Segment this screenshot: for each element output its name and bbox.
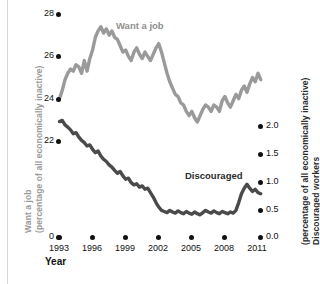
x-tick-dot-1996 <box>90 235 95 240</box>
left-tick-dot-26 <box>56 54 61 59</box>
left-axis-title-line1: Want a job <box>23 189 33 233</box>
left-tick-label-26: 26 <box>34 50 54 60</box>
x-tick-label-1999: 1999 <box>110 243 140 253</box>
x-tick-label-1996: 1996 <box>77 243 107 253</box>
x-tick-dot-1993 <box>57 235 62 240</box>
x-axis-title: Year <box>45 256 66 267</box>
x-tick-dot-2005 <box>189 235 194 240</box>
x-tick-dot-2008 <box>222 235 227 240</box>
left-tick-dot-28 <box>56 12 61 17</box>
x-tick-label-1993: 1993 <box>44 243 74 253</box>
left-tick-label-24: 24 <box>34 93 54 103</box>
x-tick-dot-2002 <box>156 235 161 240</box>
right-tick-label-2-0: 2.0 <box>266 120 279 130</box>
right-axis-title-line2: (percentage of all economically inactive… <box>300 77 310 245</box>
right-tick-dot-0-0 <box>258 235 263 240</box>
left-tick-dot-24 <box>56 97 61 102</box>
right-tick-dot-1-5 <box>258 152 263 157</box>
chart-figure: Want a job (percentage of all economical… <box>0 0 320 284</box>
right-tick-dot-0-5 <box>258 208 263 213</box>
x-tick-label-2002: 2002 <box>143 243 173 253</box>
x-tick-dot-1999 <box>123 235 128 240</box>
left-axis-title-line2: (percentage of all economically inactive… <box>34 65 44 233</box>
right-tick-label-0-0: 0.0 <box>266 231 279 241</box>
series-want-a-job <box>60 27 261 122</box>
right-tick-dot-1-0 <box>258 180 263 185</box>
series-annotation-want-a-job: Want a job <box>116 20 164 31</box>
series-annotation-discouraged: Discouraged <box>185 170 243 181</box>
right-tick-dot-2-0 <box>258 124 263 129</box>
right-tick-label-0-5: 0.5 <box>266 204 279 214</box>
right-tick-label-1-0: 1.0 <box>266 176 279 186</box>
x-tick-label-2008: 2008 <box>209 243 239 253</box>
right-tick-label-1-5: 1.5 <box>266 148 279 158</box>
left-tick-dot-22 <box>56 139 61 144</box>
series-discouraged <box>60 120 261 214</box>
x-tick-label-2011: 2011 <box>242 243 272 253</box>
left-tick-label-22: 22 <box>34 135 54 145</box>
left-tick-label-28: 28 <box>34 8 54 18</box>
x-tick-label-2005: 2005 <box>176 243 206 253</box>
left-tick-label-0: 0 <box>34 231 54 241</box>
right-axis-title-line1: Discouraged workers <box>311 157 320 245</box>
